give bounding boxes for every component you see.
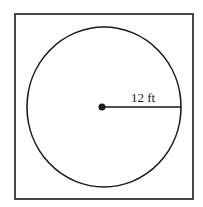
center-point <box>99 104 106 111</box>
circle-in-square-diagram: 12 ft <box>0 0 203 207</box>
radius-label: 12 ft <box>131 90 156 105</box>
